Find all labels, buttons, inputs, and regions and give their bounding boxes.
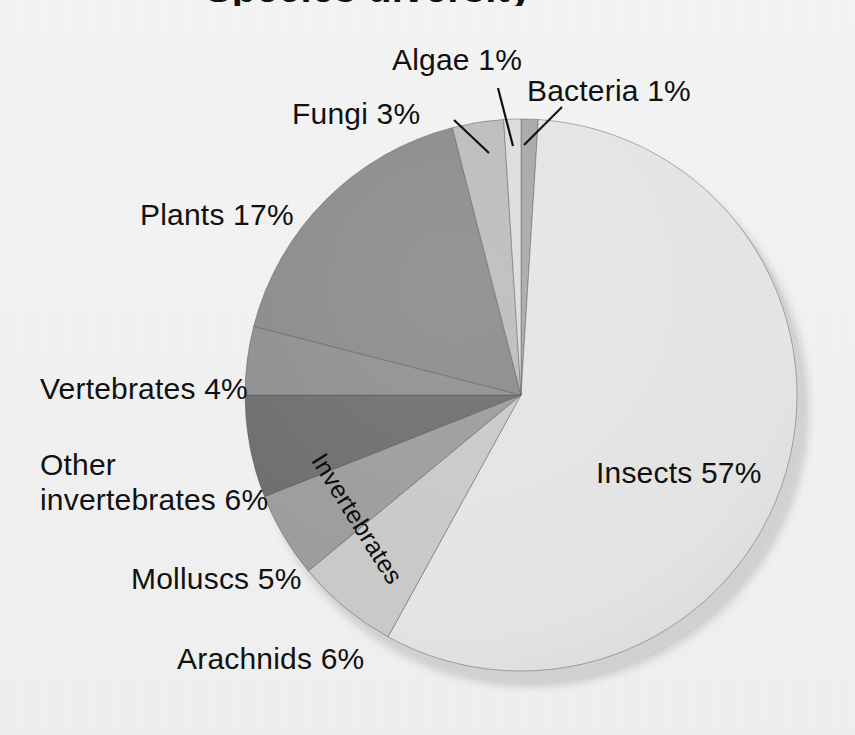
figure-canvas: Species diversity Bacter [0,0,855,735]
slice-label-fungi: Fungi 3% [292,96,420,131]
slice-label-insects: Insects 57% [596,455,762,490]
pie-chart: Bacteria 1%Insects 57%Arachnids 6%Mollus… [0,0,855,735]
slice-label-bacteria: Bacteria 1% [527,73,691,108]
slice-label-arachnids: Arachnids 6% [177,641,365,676]
slice-label-plants: Plants 17% [140,197,294,232]
pie-sheen [245,119,797,671]
slice-label-molluscs: Molluscs 5% [131,561,302,596]
slice-label-algae: Algae 1% [392,42,522,77]
slice-label-other-invertebrates: Other invertebrates 6% [40,447,268,518]
slice-label-vertebrates: Vertebrates 4% [40,371,248,406]
